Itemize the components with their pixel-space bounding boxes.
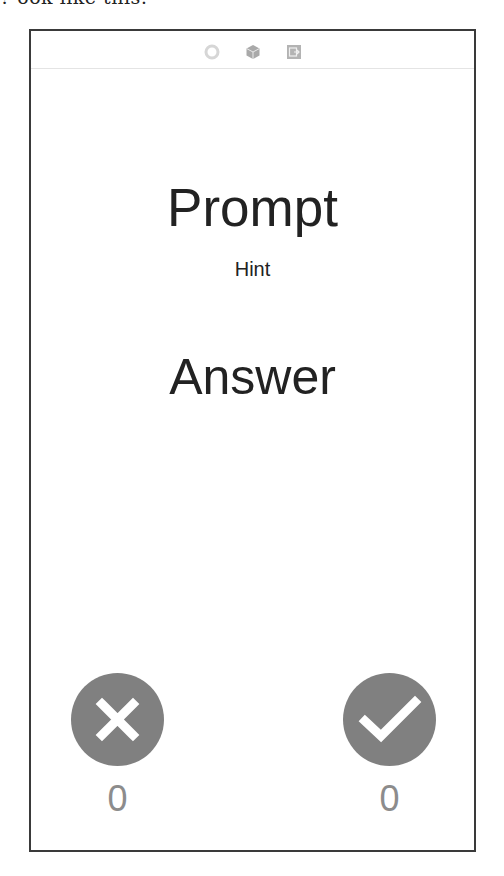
wrong-button[interactable] (71, 673, 164, 766)
checkmark-icon (343, 673, 436, 766)
prompt-label: Prompt (31, 176, 474, 240)
device-frame: Prompt Hint Answer 0 0 (29, 29, 476, 852)
exit-icon[interactable] (286, 44, 302, 60)
first-responder-icon[interactable] (245, 44, 261, 60)
caption-text-fragment: ? ook like this: (0, 0, 260, 8)
wrong-count: 0 (71, 777, 164, 821)
scene-dock (31, 31, 474, 69)
right-count: 0 (343, 777, 436, 821)
right-button[interactable] (343, 673, 436, 766)
x-mark-icon (71, 673, 164, 766)
hint-label: Hint (31, 257, 474, 281)
view-controller-icon[interactable] (204, 44, 220, 60)
answer-label: Answer (31, 347, 474, 407)
